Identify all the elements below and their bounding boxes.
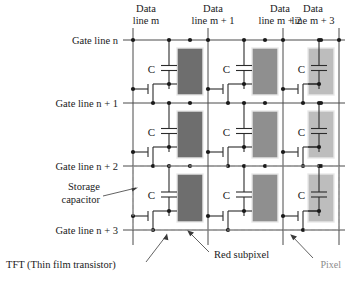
node-data-tap [281, 214, 285, 218]
node-pixel-storage [167, 82, 171, 86]
red-subpixel [177, 174, 203, 222]
storage-capacitor-annotation: Storage capacitor [62, 181, 138, 205]
node-dataline-gate-n-1 [206, 38, 210, 42]
data-line-m-label-line2: line m [133, 15, 160, 26]
red-subpixel-label: Red subpixel [214, 249, 269, 260]
node-gate-tap [301, 101, 305, 105]
node-dataline-gate-n-0 [131, 38, 135, 42]
node-data-tap [281, 150, 285, 154]
node-subpixel-top [263, 101, 267, 105]
node-capacitor-top [167, 101, 171, 105]
lcd-tft-array-diagram: Data line m Data line m + 1 Data line m … [0, 0, 345, 288]
storage-capacitor-label-line1: Storage [68, 181, 100, 192]
tft-leader [146, 236, 166, 262]
red-subpixel-arrowhead [187, 230, 194, 236]
node-subpixel-top [263, 38, 267, 42]
node-data-tap [131, 87, 135, 91]
storage-capacitor-leader [103, 188, 136, 196]
column-headers: Data line m Data line m + 1 Data line m … [133, 3, 335, 26]
node-gate-tap [151, 101, 155, 105]
storage-capacitor-label-line2: capacitor [62, 194, 101, 205]
data-line-m1-label-line2: line m + 1 [192, 15, 235, 26]
node-pixel-storage [317, 82, 321, 86]
tft-label: TFT (Thin film transistor) [6, 259, 116, 271]
capacitor-label: C [148, 189, 155, 201]
node-pixel-storage [242, 82, 246, 86]
blue-subpixel [308, 174, 334, 222]
red-subpixel-annotation: Red subpixel [187, 230, 269, 260]
node-data-tap [206, 214, 210, 218]
node-subpixel-top [188, 101, 192, 105]
subpixel-cell-r2-c2: C [281, 164, 334, 232]
capacitor-label: C [298, 189, 305, 201]
tft-annotation: TFT (Thin film transistor) [6, 234, 168, 272]
green-subpixel [252, 48, 278, 95]
subpixel-cell-r2-c0: C [131, 164, 203, 232]
red-subpixel-leader [189, 232, 209, 252]
gate-line-n1-label: Gate line n + 1 [56, 98, 119, 109]
subpixel-cell-r1-c0: C [131, 101, 203, 168]
node-capacitor-top [242, 38, 246, 42]
capacitor-label: C [223, 126, 230, 138]
gate-line-n3-label: Gate line n + 3 [56, 225, 119, 236]
node-dataline-gate-n-3 [337, 38, 341, 42]
storage-capacitor-arrowhead [132, 187, 139, 191]
capacitor-label: C [298, 63, 305, 75]
node-subpixel-top [188, 38, 192, 42]
node-data-tap [281, 87, 285, 91]
pixel-arrowhead [290, 234, 297, 240]
pixel-annotation: Pixel [290, 234, 341, 270]
node-pixel-storage [167, 145, 171, 149]
node-pixel-storage [317, 209, 321, 213]
gate-line-labels: Gate line n Gate line n + 1 Gate line n … [56, 35, 119, 236]
blue-subpixel [308, 111, 334, 158]
subpixel-cell-r2-c1: C [206, 164, 278, 232]
capacitor-label: C [148, 63, 155, 75]
capacitor-label: C [223, 189, 230, 201]
red-subpixel [177, 111, 203, 158]
node-pixel-storage [242, 209, 246, 213]
blue-subpixel [308, 48, 334, 95]
node-data-tap [206, 87, 210, 91]
green-subpixel [252, 111, 278, 158]
gate-line-n2-label: Gate line n + 2 [56, 161, 119, 172]
node-dataline-gate-n-2 [281, 38, 285, 42]
subpixel-cell-r0-c1: C [206, 38, 278, 105]
node-pixel-storage [242, 145, 246, 149]
node-pixel-storage [317, 145, 321, 149]
subpixel-cell-r0-c2: C [281, 38, 334, 105]
subpixel-cell-r1-c1: C [206, 101, 278, 168]
data-line-m1-label-line1: Data [203, 3, 223, 14]
subpixel-cell-r1-c2: C [281, 101, 334, 168]
data-line-m-label-line1: Data [136, 3, 156, 14]
red-subpixel [177, 48, 203, 95]
capacitor-label: C [148, 126, 155, 138]
node-capacitor-top [242, 101, 246, 105]
pixel-label: Pixel [320, 259, 341, 270]
gate-line-n-label: Gate line n [72, 35, 119, 46]
subpixel-cell-r0-c0: C [131, 38, 203, 105]
capacitor-label: C [298, 126, 305, 138]
node-subpixel-top [319, 38, 323, 42]
capacitor-label: C [223, 63, 230, 75]
pixel-leader [292, 236, 313, 258]
subpixel-cell-grid: CCCCCCCCC [131, 38, 341, 232]
data-line-m3-label-line2: line m + 3 [292, 15, 335, 26]
node-subpixel-top [319, 101, 323, 105]
node-data-tap [206, 150, 210, 154]
green-subpixel [252, 174, 278, 222]
data-line-m3-label-line1: Data [303, 3, 323, 14]
node-capacitor-top [167, 38, 171, 42]
node-pixel-storage [167, 209, 171, 213]
node-data-tap [131, 150, 135, 154]
node-gate-tap [226, 101, 230, 105]
data-line-m2-label-line1: Data [270, 3, 290, 14]
